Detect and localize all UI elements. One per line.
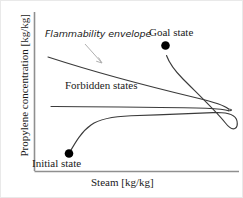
- figure-container: Propylene concentration [kg/kg] Steam [k…: [0, 0, 243, 198]
- process-trajectory: [69, 56, 237, 154]
- forbidden-states-label: Forbidden states: [65, 80, 137, 91]
- y-axis-label: Propylene concentration [kg/kg]: [19, 17, 30, 157]
- flammability-envelope-nose: [229, 109, 232, 111]
- goal-state-label: Goal state: [149, 27, 193, 38]
- initial-state-label: Initial state: [32, 158, 81, 169]
- x-axis-label: Steam [kg/kg]: [91, 177, 154, 188]
- flammability-envelope-leader-arrow: [85, 44, 102, 63]
- flammability-envelope-label: Flammability envelope: [45, 29, 151, 39]
- goal-state-marker: [161, 41, 170, 50]
- flammability-envelope-lower-branch: [51, 107, 229, 111]
